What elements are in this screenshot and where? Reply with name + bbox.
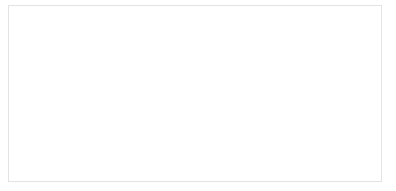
chart-container: 0200,000400,000600,000800,0001,000,0001,…	[0, 0, 396, 191]
chart-frame	[8, 5, 382, 182]
